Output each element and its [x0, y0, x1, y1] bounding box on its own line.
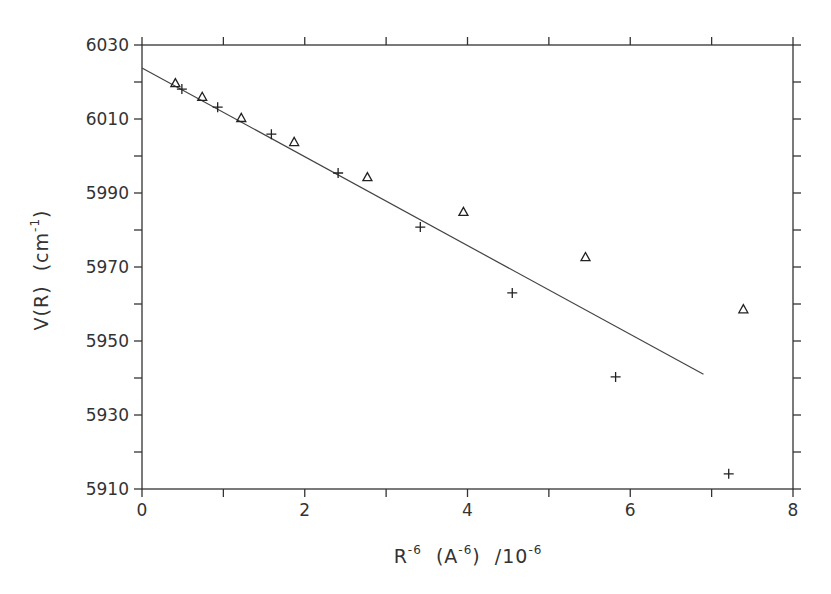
y-tick-label: 5910: [86, 479, 129, 499]
plus-marker: [611, 372, 621, 382]
triangle-marker: [459, 207, 468, 215]
plot-frame: [142, 45, 793, 489]
x-tick-label: 4: [462, 500, 473, 520]
plus-marker: [724, 469, 734, 479]
triangle-marker: [237, 113, 246, 121]
triangle-marker: [198, 92, 207, 100]
data-markers: [171, 79, 748, 479]
x-axis-label: R-6 (A-6) /10-6: [394, 543, 543, 567]
x-tick-label: 0: [137, 500, 148, 520]
y-tick-label: 6010: [86, 109, 129, 129]
plus-marker: [266, 129, 276, 139]
x-tick-label: 2: [299, 500, 310, 520]
fit-line-segment: [142, 68, 703, 374]
plus-marker: [415, 222, 425, 232]
y-tick-label: 5990: [86, 183, 129, 203]
y-tick-label: 5930: [86, 405, 129, 425]
triangle-marker: [363, 173, 372, 181]
y-tick-label: 5970: [86, 257, 129, 277]
y-tick-label: 6030: [86, 35, 129, 55]
y-tick-labels: 5910593059505970599060106030: [86, 35, 129, 499]
triangle-marker: [581, 253, 590, 261]
x-tick-label: 6: [625, 500, 636, 520]
triangle-marker: [739, 305, 748, 313]
scatter-chart: 02468 5910593059505970599060106030 R-6 (…: [0, 0, 831, 594]
fit-line: [142, 68, 703, 374]
triangle-marker: [290, 137, 299, 145]
plus-marker: [177, 84, 187, 94]
axis-ticks: [134, 37, 801, 497]
x-tick-labels: 02468: [137, 500, 799, 520]
y-tick-label: 5950: [86, 331, 129, 351]
x-tick-label: 8: [788, 500, 799, 520]
y-axis-label: V(R) (cm-1): [28, 210, 52, 331]
plus-marker: [507, 288, 517, 298]
